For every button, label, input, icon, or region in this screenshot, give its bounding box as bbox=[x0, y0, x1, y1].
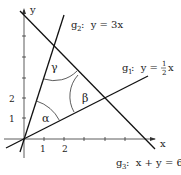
line-g3 bbox=[20, 11, 155, 149]
angle-gamma-label: γ bbox=[51, 61, 58, 74]
svg-text:: y = 3x: : y = 3x bbox=[81, 19, 123, 30]
angle-beta-arc bbox=[70, 75, 78, 112]
line-g1 bbox=[6, 76, 148, 148]
y-axis-label: y bbox=[29, 4, 36, 15]
svg-text:2: 2 bbox=[162, 69, 166, 77]
svg-text:: y =: : y = bbox=[131, 62, 158, 73]
angle-gamma-arc bbox=[44, 71, 77, 81]
x-axis-arrow-icon bbox=[150, 137, 156, 141]
x-axis-label: x bbox=[160, 138, 166, 149]
x-tick-label: 1 bbox=[40, 144, 46, 154]
line-g2 bbox=[20, 15, 64, 152]
x-tick-label: 2 bbox=[62, 144, 68, 154]
equation-g1: g 1 : y = 1 2 x bbox=[122, 60, 174, 77]
angle-beta-label: β bbox=[82, 92, 88, 105]
svg-text:x: x bbox=[168, 62, 174, 73]
y-tick-label: 2 bbox=[9, 94, 15, 104]
svg-text:1: 1 bbox=[162, 60, 166, 68]
y-tick-label: 1 bbox=[9, 114, 15, 124]
angle-alpha-label: α bbox=[42, 112, 50, 125]
equation-g3: g 3 : x + y = 6 bbox=[116, 157, 181, 171]
svg-text:: x + y = 6: : x + y = 6 bbox=[126, 157, 181, 168]
equation-g2: g 2 : y = 3x bbox=[71, 19, 123, 33]
triangle-diagram: x y 1 2 1 2 α β γ g 2 : y = 3x g 1 : y =… bbox=[0, 0, 181, 175]
